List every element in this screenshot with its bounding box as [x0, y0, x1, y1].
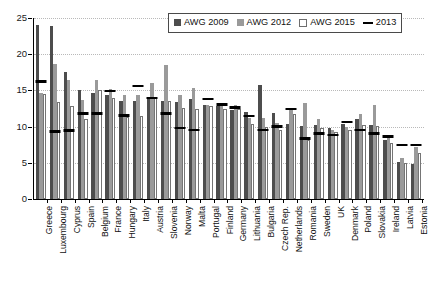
x-label-cell: Italy: [131, 204, 145, 302]
bar-awg-2015: [70, 106, 73, 199]
bar-awg-2015: [98, 90, 101, 199]
bar-awg-2015: [404, 163, 407, 199]
bar-awg-2015: [43, 94, 46, 199]
marker-2013: [313, 132, 324, 135]
x-label-cell: Luxembourg: [48, 204, 62, 302]
bar-awg-2015: [57, 102, 60, 199]
bar-awg-2015: [251, 124, 254, 199]
bar-awg-2015: [182, 108, 185, 199]
bar-awg-2015: [418, 153, 421, 199]
y-tick-label: 15: [16, 86, 27, 96]
x-label-cell: Austria: [145, 204, 159, 302]
x-label-cell: Lithuania: [242, 204, 256, 302]
bar-group: [340, 18, 354, 199]
marker-2013: [341, 121, 352, 124]
marker-2013: [327, 134, 338, 137]
x-label-cell: Latvia: [395, 204, 409, 302]
x-label-cell: Ireland: [381, 204, 395, 302]
x-label-cell: Slovenia: [159, 204, 173, 302]
bar-group: [256, 18, 270, 199]
x-label-cell: France: [103, 204, 117, 302]
x-label-cell: Sweden: [312, 204, 326, 302]
bar-group: [381, 18, 395, 199]
y-tick-mark: [28, 18, 32, 19]
bar-awg-2015: [376, 126, 379, 199]
y-tick-label: 20: [16, 49, 27, 59]
bar-awg-2015: [168, 101, 171, 199]
x-label-cell: Bulgaria: [256, 204, 270, 302]
bar-awg-2015: [237, 109, 240, 199]
legend-label: AWG 2009: [184, 18, 229, 27]
bar-group: [312, 18, 326, 199]
bar-group: [145, 18, 159, 199]
marker-2013: [397, 144, 408, 147]
x-tick-label: Estonia: [420, 206, 429, 235]
x-label-cell: Poland: [353, 204, 367, 302]
x-label-cell: Malta: [187, 204, 201, 302]
bar-group: [201, 18, 215, 199]
x-label-cell: Denmark: [340, 204, 354, 302]
x-label-cell: Germany: [228, 204, 242, 302]
x-label-cell: Norway: [173, 204, 187, 302]
bar-group: [117, 18, 131, 199]
marker-2013: [216, 103, 227, 106]
bar-group: [131, 18, 145, 199]
bar-group: [409, 18, 423, 199]
bar-awg-2015: [279, 130, 282, 200]
bar-awg-2015: [265, 127, 268, 199]
x-label-cell: UK: [326, 204, 340, 302]
bar-awg-2015: [320, 128, 323, 199]
bar-group: [159, 18, 173, 199]
bar-group: [242, 18, 256, 199]
bar-awg-2015: [390, 143, 393, 199]
legend-swatch-white-square: [299, 19, 307, 27]
bar-group: [395, 18, 409, 199]
marker-2013: [383, 135, 394, 138]
bar-awg-2015: [223, 109, 226, 200]
y-tick-mark: [28, 163, 32, 164]
x-label-cell: Romania: [298, 204, 312, 302]
bar-awg-2015: [334, 132, 337, 199]
marker-2013: [369, 132, 380, 135]
bar-group: [353, 18, 367, 199]
x-label-cell: Portugal: [201, 204, 215, 302]
bar-group: [270, 18, 284, 199]
y-axis: 0510152025: [0, 18, 27, 199]
marker-2013: [244, 115, 255, 118]
marker-2013: [77, 112, 88, 115]
bar-awg-2015: [209, 106, 212, 199]
y-tick-label: 5: [22, 158, 27, 168]
marker-2013: [202, 98, 213, 101]
marker-2013: [133, 85, 144, 88]
x-label-cell: Greece: [34, 204, 48, 302]
marker-2013: [49, 130, 60, 133]
legend-swatch-dark-gray-square: [174, 19, 181, 26]
legend-item: 2013: [363, 18, 396, 27]
x-label-cell: Cyprus: [62, 204, 76, 302]
bar-group: [326, 18, 340, 199]
bar-group: [76, 18, 90, 199]
bar-awg-2015: [195, 109, 198, 199]
bar-group: [90, 18, 104, 199]
y-tick-mark: [28, 199, 32, 200]
marker-2013: [91, 112, 102, 115]
legend-swatch-black-line: [363, 22, 373, 25]
bar-chart: 0510152025 GreeceLuxembourgCyprusSpainBe…: [0, 0, 430, 305]
marker-2013: [272, 125, 283, 128]
marker-2013: [35, 80, 46, 83]
legend-label: 2013: [376, 18, 396, 27]
x-label-cell: Netherlands: [284, 204, 298, 302]
bar-group: [48, 18, 62, 199]
marker-2013: [230, 106, 241, 109]
bar-awg-2015: [362, 125, 365, 199]
legend-swatch-medium-gray-square: [237, 19, 244, 26]
marker-2013: [105, 90, 116, 93]
legend-label: AWG 2015: [310, 18, 355, 27]
legend-item: AWG 2015: [299, 18, 355, 27]
x-axis-labels: GreeceLuxembourgCyprusSpainBelgiumFrance…: [34, 204, 423, 302]
y-tick-mark: [28, 54, 32, 55]
bar-group: [284, 18, 298, 199]
bar-awg-2015: [126, 117, 129, 199]
y-tick-label: 0: [22, 194, 27, 204]
marker-2013: [160, 112, 171, 115]
